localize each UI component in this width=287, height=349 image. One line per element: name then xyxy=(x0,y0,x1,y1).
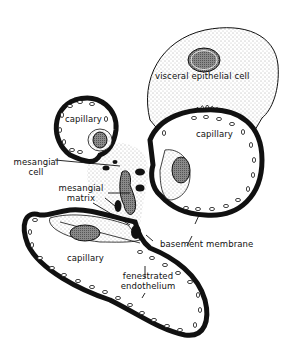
label-visceral-epithelial-cell: visceral epithelial cell xyxy=(155,71,249,81)
visceral-nucleus xyxy=(188,48,220,72)
label-capillary-lower: capillary xyxy=(67,253,104,263)
label-fenestrated-line2: endothelium xyxy=(118,281,178,291)
glomerulus-diagram: visceral epithelial cell capillary capil… xyxy=(0,0,287,349)
label-capillary-right: capillary xyxy=(196,129,233,139)
label-mesangial-matrix-line1: mesangial xyxy=(56,183,106,193)
label-mesangial-cell: mesangial cell xyxy=(12,157,60,177)
label-mesangial-cell-line1: mesangial xyxy=(12,157,60,167)
nucleus-right xyxy=(172,157,190,183)
nucleus-upper-left xyxy=(93,132,107,148)
label-fenestrated-line1: fenestrated xyxy=(118,271,178,281)
label-mesangial-matrix: mesangial matrix xyxy=(56,183,106,203)
capillary-upper-left-wall xyxy=(56,98,116,161)
label-mesangial-matrix-line2: matrix xyxy=(56,193,106,203)
label-mesangial-cell-line2: cell xyxy=(12,167,60,177)
label-fenestrated-endothelium: fenestrated endothelium xyxy=(118,271,178,291)
nucleus-lower xyxy=(70,225,100,241)
label-capillary-upper-left: capillary xyxy=(65,114,102,124)
label-basement-membrane: basement membrane xyxy=(160,239,253,249)
